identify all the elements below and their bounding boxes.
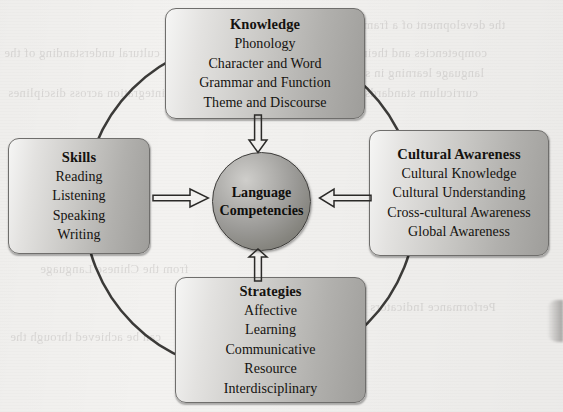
- diagram-page: the development of a framework competenc…: [0, 0, 563, 412]
- arrow-left-icon-cultural-to-center: [318, 186, 372, 210]
- center-node-label-line: Language: [232, 184, 292, 202]
- box-item: Listening: [52, 186, 105, 206]
- arrow-right-icon-skills-to-center: [152, 186, 210, 210]
- box-item: Affective: [244, 301, 297, 321]
- box-item: Communicative: [225, 340, 315, 360]
- box-item: Cultural Knowledge: [402, 164, 517, 184]
- arrow-up-icon-strategies-to-center: [246, 248, 270, 282]
- box-item: Cultural Understanding: [393, 183, 526, 203]
- box-title-knowledge: Knowledge: [230, 15, 300, 34]
- center-node-language-competencies[interactable]: Language Competencies: [212, 152, 311, 251]
- concept-box-knowledge[interactable]: Knowledge Phonology Character and Word G…: [165, 8, 365, 119]
- concept-box-skills[interactable]: Skills Reading Listening Speaking Writin…: [8, 138, 150, 254]
- box-item: Character and Word: [208, 54, 321, 74]
- box-item: Reading: [55, 167, 102, 187]
- box-item: Grammar and Function: [199, 73, 331, 93]
- box-title-skills: Skills: [62, 148, 96, 167]
- arrow-down-icon-knowledge-to-center: [246, 114, 270, 154]
- concept-box-cultural-awareness[interactable]: Cultural Awareness Cultural Knowledge Cu…: [369, 130, 549, 256]
- box-item: Cross-cultural Awareness: [387, 203, 530, 223]
- box-item: Phonology: [234, 34, 295, 54]
- center-node-label-line: Competencies: [220, 202, 304, 220]
- box-item: Global Awareness: [408, 222, 510, 242]
- box-item: Interdisciplinary: [224, 379, 317, 399]
- box-item: Learning: [245, 320, 296, 340]
- box-item: Theme and Discourse: [203, 93, 326, 113]
- box-title-cultural-awareness: Cultural Awareness: [397, 145, 520, 164]
- page-edge-smudge: [547, 300, 563, 342]
- concept-box-strategies[interactable]: Strategies Affective Learning Communicat…: [175, 277, 366, 403]
- box-item: Resource: [244, 359, 297, 379]
- box-title-strategies: Strategies: [239, 282, 301, 301]
- box-item: Speaking: [53, 206, 106, 226]
- box-item: Writing: [57, 225, 100, 245]
